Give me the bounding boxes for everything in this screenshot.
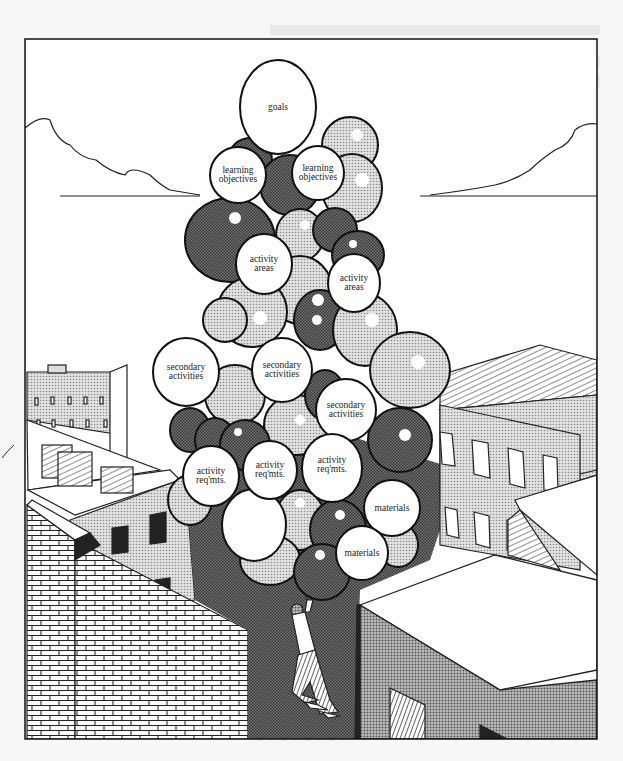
balloon-illustration: goals learning objectives learning objec…: [0, 0, 623, 761]
balloon-activity-reqmts-3: [302, 434, 362, 502]
balloon-learning-objectives-1: [210, 147, 266, 203]
balloon-activity-reqmts-2: [243, 441, 297, 499]
balloon-secondary-activities-2: [252, 338, 312, 402]
balloon-materials-2: [336, 526, 388, 580]
balloon-activity-areas-2: [328, 254, 380, 312]
stray-mark: [2, 445, 14, 458]
balloon-activity-areas-1: [236, 234, 292, 294]
balloon-goals: [240, 60, 316, 154]
balloon-secondary-activities-1: [153, 338, 219, 406]
balloon-secondary-activities-3: [316, 379, 376, 441]
illustration-canvas: [0, 0, 623, 761]
building-right-back: [440, 345, 597, 575]
balloon-learning-objectives-2: [292, 146, 344, 200]
balloon-activity-reqmts-1: [183, 446, 239, 506]
